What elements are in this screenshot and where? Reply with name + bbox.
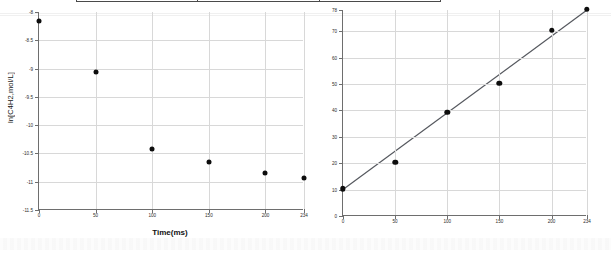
data-point	[93, 69, 98, 74]
x-axis-tick-label: 234	[583, 219, 591, 224]
y-axis-tick-label: -8	[29, 10, 33, 15]
x-axis-tick-label: 150	[205, 213, 213, 218]
y-axis-tick-label: 70	[332, 29, 337, 34]
gridline-horizontal	[39, 182, 303, 183]
x-axis-tick-label: 100	[148, 213, 156, 218]
chart-first-order: ln[C4H2,mol/L] -11.5-11-10.5-10-9.5-9-8.…	[0, 0, 310, 255]
gridline-horizontal	[343, 163, 586, 164]
y-axis-tick-label: 0	[334, 214, 337, 219]
data-point	[584, 6, 589, 11]
gridline-horizontal	[39, 40, 303, 41]
y-axis-tick-label: 40	[332, 108, 337, 113]
gridline-horizontal	[39, 125, 303, 126]
y-axis-tick-label: -11	[27, 179, 33, 184]
x-axis-tick-label: 150	[496, 219, 504, 224]
y-axis-tick	[339, 163, 343, 164]
y-axis-tick-label: -9	[29, 66, 33, 71]
gridline-vertical	[395, 10, 396, 215]
y-axis-tick	[339, 110, 343, 111]
x-axis-tick-label: 200	[262, 213, 270, 218]
y-axis-tick-label: -10	[26, 123, 33, 128]
y-axis-tick	[35, 125, 39, 126]
y-axis-tick-label: 60	[332, 55, 337, 60]
y-axis-tick-label: 78	[332, 8, 337, 13]
y-axis-tick	[339, 84, 343, 85]
data-point	[37, 19, 42, 24]
y-axis-tick-label: 50	[332, 81, 337, 86]
y-axis-tick	[35, 40, 39, 41]
gridline-horizontal	[343, 84, 586, 85]
data-point	[150, 147, 155, 152]
scan-noise-band	[0, 238, 611, 250]
y-axis-tick	[35, 97, 39, 98]
data-point	[206, 160, 211, 165]
y-axis-tick	[35, 69, 39, 70]
gridline-horizontal	[343, 137, 586, 138]
y-axis-tick	[339, 137, 343, 138]
y-axis-tick-label: 20	[332, 161, 337, 166]
gridline-vertical	[96, 12, 97, 209]
y-axis-tick-label: -9.5	[25, 94, 33, 99]
y-axis-tick	[339, 31, 343, 32]
gridline-horizontal	[39, 153, 303, 154]
x-axis-tick-label: 50	[393, 219, 398, 224]
gridline-vertical	[209, 12, 210, 209]
x-axis-tick-label: 100	[443, 219, 451, 224]
x-axis-tick-label: 234	[300, 213, 308, 218]
gridline-vertical	[152, 12, 153, 209]
x-axis-tick-label: 0	[342, 219, 345, 224]
gridline-vertical	[587, 10, 588, 215]
y-axis-title-left: ln[C4H2,mol/L]	[6, 72, 15, 123]
x-axis-title-left: Time(ms)	[38, 228, 302, 237]
chart-second-order: 1/[C4H2,mol/L]x 1000 0102030405060707805…	[310, 0, 611, 255]
gridline-vertical	[552, 10, 553, 215]
y-axis-tick	[35, 182, 39, 183]
gridline-vertical	[499, 10, 500, 215]
gridline-horizontal	[343, 58, 586, 59]
y-axis-tick-label: -8.5	[25, 38, 33, 43]
plot-area-left: -11.5-11-10.5-10-9.5-9-8.5-8050100150200…	[38, 12, 303, 210]
y-axis-tick	[35, 12, 39, 13]
gridline-horizontal	[343, 190, 586, 191]
y-axis-tick-label: 10	[332, 187, 337, 192]
plot-area-right: 01020304050607078050100150200234	[342, 10, 586, 216]
x-axis-tick-label: 200	[548, 219, 556, 224]
x-axis-tick-label: 0	[38, 213, 41, 218]
data-point	[302, 175, 307, 180]
y-axis-tick	[339, 58, 343, 59]
y-axis-tick-label: -10.5	[23, 151, 33, 156]
y-axis-tick	[339, 10, 343, 11]
y-axis-tick	[35, 153, 39, 154]
gridline-vertical	[265, 12, 266, 209]
gridline-horizontal	[343, 110, 586, 111]
x-axis-tick-label: 50	[93, 213, 98, 218]
gridline-horizontal	[39, 69, 303, 70]
data-point	[263, 171, 268, 176]
gridline-horizontal	[39, 97, 303, 98]
trendline	[343, 10, 586, 215]
y-axis-tick-label: -11.5	[23, 208, 33, 213]
y-axis-tick-label: 30	[332, 134, 337, 139]
